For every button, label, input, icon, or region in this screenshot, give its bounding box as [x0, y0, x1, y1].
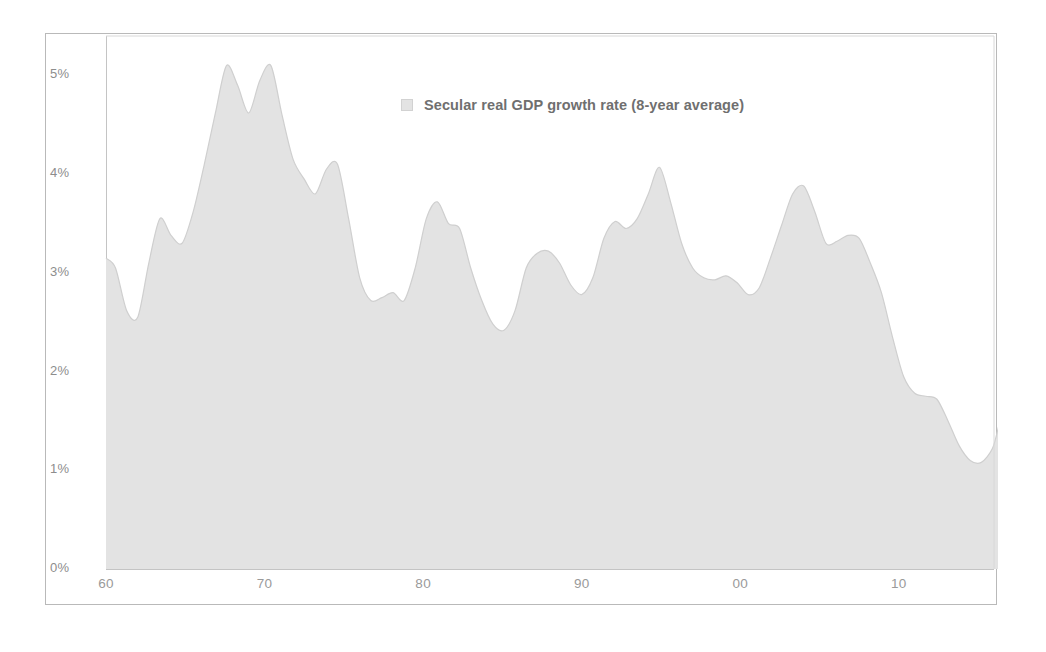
legend-swatch-icon: [401, 99, 413, 111]
series-area-secular-real-gdp-growth-rate: [106, 64, 998, 569]
area-chart-plot: [46, 34, 998, 606]
legend-label: Secular real GDP growth rate (8-year ave…: [424, 97, 744, 113]
chart-legend: Secular real GDP growth rate (8-year ave…: [401, 97, 744, 113]
chart-figure: 0%1%2%3%4%5% 607080900010 Secular real G…: [45, 33, 997, 605]
